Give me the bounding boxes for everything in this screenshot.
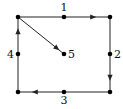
- label-2: 2: [114, 48, 121, 61]
- arrowhead-icon: [15, 28, 20, 34]
- node-n5: [62, 52, 67, 57]
- label-1: 1: [61, 1, 68, 14]
- node-br: [108, 90, 113, 95]
- node-tr: [108, 15, 113, 20]
- label-4: 4: [7, 48, 14, 61]
- node-n1: [62, 15, 67, 20]
- arrowhead-icon: [90, 14, 96, 19]
- label-5: 5: [68, 48, 75, 61]
- arrowhead-icon: [107, 75, 112, 81]
- node-n2: [108, 52, 113, 57]
- node-tl: [16, 15, 21, 20]
- directed-graph-diagram: 1 2 3 4 5: [0, 0, 123, 109]
- node-bl: [16, 90, 21, 95]
- node-n4: [16, 52, 21, 57]
- arrowhead-icon: [32, 89, 38, 94]
- label-3: 3: [61, 94, 68, 107]
